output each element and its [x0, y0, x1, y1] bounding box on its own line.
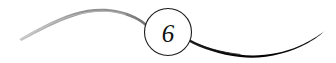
- ornament-graphic: 6: [0, 0, 336, 63]
- chapter-ornament: 6: [0, 0, 336, 63]
- chapter-number: 6: [162, 20, 175, 47]
